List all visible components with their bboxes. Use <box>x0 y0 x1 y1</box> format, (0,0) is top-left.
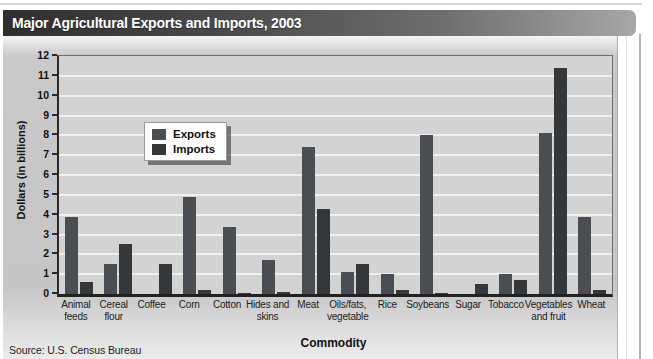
y-tick: 2 <box>43 247 57 259</box>
imports-bar <box>396 290 409 294</box>
x-axis-label: Sugar <box>449 299 487 323</box>
bar-group <box>257 56 297 294</box>
y-tick: 3 <box>43 228 57 240</box>
y-tick: 7 <box>43 148 57 160</box>
exports-bar <box>578 217 591 294</box>
x-axis-label: Cereal flour <box>95 299 133 323</box>
x-axis-label: Tobacco <box>487 299 525 323</box>
y-axis-ticks: 0123456789101112 <box>3 55 57 293</box>
y-tick-label: 0 <box>43 287 49 299</box>
x-axis-label: Animal feeds <box>57 299 95 323</box>
y-tick: 6 <box>43 168 57 180</box>
imports-bar <box>356 264 369 294</box>
chart-panel: Dollars (in billions) 0123456789101112 E… <box>3 36 618 359</box>
bar-group <box>573 56 613 294</box>
plot-area: Exports Imports <box>57 55 613 297</box>
x-axis-label: Oils/fats, vegetable <box>327 299 369 323</box>
imports-bar <box>277 292 290 294</box>
x-axis-label: Soybeans <box>406 299 449 323</box>
x-axis-label: Vegetables and fruit <box>525 299 573 323</box>
imports-bar <box>119 244 132 294</box>
imports-bar <box>435 293 448 294</box>
bar-group <box>296 56 336 294</box>
exports-bar <box>539 133 552 294</box>
exports-bar <box>183 197 196 294</box>
y-tick-label: 4 <box>43 208 49 220</box>
imports-bar <box>593 290 606 294</box>
y-tick-label: 6 <box>43 168 49 180</box>
y-tick-label: 9 <box>43 109 49 121</box>
exports-bar <box>302 147 315 294</box>
exports-bar <box>381 274 394 294</box>
chart-title: Major Agricultural Exports and Imports, … <box>3 15 301 31</box>
page-edge-faint-line <box>626 36 627 359</box>
x-axis-label: Corn <box>170 299 208 323</box>
source-note: Source: U.S. Census Bureau <box>9 344 141 356</box>
bar-group <box>375 56 415 294</box>
page-edge-line <box>639 34 641 359</box>
imports-bar <box>159 264 172 294</box>
x-axis-label: Cotton <box>208 299 246 323</box>
x-axis-label: Meat <box>289 299 327 323</box>
y-tick: 4 <box>43 208 57 220</box>
page-top-edge <box>0 3 642 5</box>
y-tick-label: 11 <box>38 69 49 81</box>
legend-row-exports: Exports <box>152 128 216 140</box>
legend-imports-label: Imports <box>173 143 215 155</box>
bar-group <box>217 56 257 294</box>
y-tick: 10 <box>37 89 57 101</box>
x-axis-label: Wheat <box>572 299 610 323</box>
exports-bar <box>262 260 275 294</box>
y-tick-label: 8 <box>43 128 49 140</box>
exports-bar <box>499 274 512 294</box>
imports-bar <box>514 280 527 294</box>
imports-swatch-icon <box>152 144 166 155</box>
imports-bar <box>475 284 488 294</box>
y-tick-label: 7 <box>43 148 49 160</box>
bar-group <box>494 56 534 294</box>
y-tick-label: 2 <box>43 247 49 259</box>
x-axis-label: Coffee <box>133 299 171 323</box>
y-tick: 8 <box>43 128 57 140</box>
bar-group <box>178 56 218 294</box>
bar-group <box>59 56 99 294</box>
y-tick-label: 1 <box>43 267 49 279</box>
imports-bar <box>238 293 251 294</box>
legend-exports-label: Exports <box>173 128 216 140</box>
exports-swatch-icon <box>152 129 166 140</box>
exports-bar <box>223 227 236 294</box>
exports-bar <box>104 264 117 294</box>
bar-group <box>99 56 139 294</box>
exports-bar <box>341 272 354 294</box>
y-tick-label: 5 <box>43 188 49 200</box>
legend-row-imports: Imports <box>152 143 216 155</box>
y-tick-label: 12 <box>37 49 49 61</box>
bar-group <box>533 56 573 294</box>
x-axis-labels: Animal feedsCereal flourCoffeeCornCotton… <box>57 299 610 323</box>
bar-group <box>336 56 376 294</box>
y-tick: 5 <box>43 188 57 200</box>
imports-bar <box>317 209 330 294</box>
y-tick: 11 <box>38 69 57 81</box>
y-tick-label: 3 <box>43 228 49 240</box>
x-axis-label: Rice <box>369 299 407 323</box>
exports-bar <box>65 217 78 294</box>
imports-bar <box>198 290 211 294</box>
exports-bar <box>420 135 433 294</box>
y-tick: 1 <box>43 267 57 279</box>
bar-group <box>415 56 455 294</box>
y-tick: 12 <box>37 49 57 61</box>
bar-groups <box>59 56 612 294</box>
chart-title-bar: Major Agricultural Exports and Imports, … <box>3 10 636 36</box>
bar-group <box>454 56 494 294</box>
y-tick-label: 10 <box>37 89 49 101</box>
legend: Exports Imports <box>144 122 227 161</box>
y-tick: 9 <box>43 109 57 121</box>
imports-bar <box>80 282 93 294</box>
y-tick: 0 <box>43 287 57 299</box>
imports-bar <box>554 68 567 294</box>
bar-group <box>138 56 178 294</box>
x-axis-label: Hides and skins <box>246 299 289 323</box>
